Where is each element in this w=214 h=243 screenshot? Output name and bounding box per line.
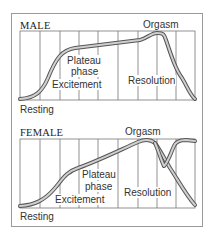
male-title: MALE xyxy=(20,20,51,31)
male-chart-grid xyxy=(20,31,195,100)
male-excitement-label: Excitement xyxy=(51,79,102,90)
male-resting-label: Resting xyxy=(19,104,55,115)
female-excitement-label: Excitement xyxy=(54,194,105,205)
male-response-curve xyxy=(20,33,195,99)
female-resting-label: Resting xyxy=(19,211,55,222)
female-title: FEMALE xyxy=(20,127,63,138)
male-resolution-label: Resolution xyxy=(127,75,176,86)
response-cycle-graphs xyxy=(0,0,214,243)
male-plateau-label-line2: phase xyxy=(70,66,99,77)
female-plateau-label-line2: phase xyxy=(84,181,113,192)
female-orgasm-label: Orgasm xyxy=(124,126,162,137)
female-plateau-label-line1: Plateau xyxy=(81,169,117,180)
male-plateau-label-line1: Plateau xyxy=(66,55,102,66)
female-resolution-label: Resolution xyxy=(123,187,172,198)
male-orgasm-label: Orgasm xyxy=(142,19,180,30)
